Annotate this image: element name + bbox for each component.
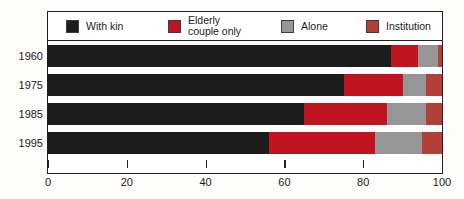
chart-legend: With kin Elderly couple only Alone Insti… [48,12,442,41]
y-axis-label-1985: 1985 [1,108,43,120]
table-row [48,132,442,154]
x-axis-tick-label: 100 [433,176,451,188]
stacked-bar-chart: With kin Elderly couple only Alone Insti… [0,0,464,199]
x-axis-tick [442,160,443,168]
legend-label-elderly-couple-only: Elderly couple only [188,15,241,37]
legend-label-with-kin: With kin [86,21,123,32]
x-axis-tick-label: 80 [357,176,369,188]
bar-segment [48,74,344,96]
bars-area [48,41,442,160]
bar-segment [48,45,391,67]
bar-segment [422,132,442,154]
legend-item-with-kin: With kin [66,12,123,40]
x-axis-tick-label: 0 [45,176,51,188]
x-axis-tick [284,160,285,168]
legend-label-alone: Alone [301,21,328,32]
bar-segment [426,103,442,125]
bar-segment [344,74,403,96]
bar-segment [304,103,387,125]
x-axis-tick [48,160,49,168]
x-axis-tick-label: 40 [199,176,211,188]
bar-segment [48,132,269,154]
x-axis-tick [127,160,128,168]
bar-segment [391,45,419,67]
x-axis-tick [363,160,364,168]
x-axis-tick [206,160,207,168]
bar-segment [48,103,304,125]
y-axis-label-1995: 1995 [1,137,43,149]
legend-item-alone: Alone [281,12,328,40]
bar-segment [269,132,375,154]
y-axis-label-1975: 1975 [1,79,43,91]
legend-label-institution: Institution [386,21,431,32]
x-axis-tick-label: 20 [121,176,133,188]
x-axis-tick-labels: 020406080100 [0,176,464,196]
y-axis-category-labels: 1960 1975 1985 1995 [0,41,43,160]
y-axis-label-1960: 1960 [1,50,43,62]
x-axis-tick-label: 60 [278,176,290,188]
legend-swatch-icon-elderly-couple-only [168,20,181,33]
bar-segment [403,74,427,96]
legend-swatch-icon-with-kin [66,20,79,33]
table-row [48,103,442,125]
bar-segment [418,45,438,67]
bar-segment [426,74,442,96]
bar-segment [375,132,422,154]
bar-segment [387,103,426,125]
table-row [48,45,442,67]
legend-item-institution: Institution [366,12,431,40]
legend-swatch-icon-alone [281,20,294,33]
legend-item-elderly-couple-only: Elderly couple only [168,12,241,40]
bar-segment [438,45,442,67]
table-row [48,74,442,96]
legend-swatch-icon-institution [366,20,379,33]
x-axis-ticks [48,160,442,174]
